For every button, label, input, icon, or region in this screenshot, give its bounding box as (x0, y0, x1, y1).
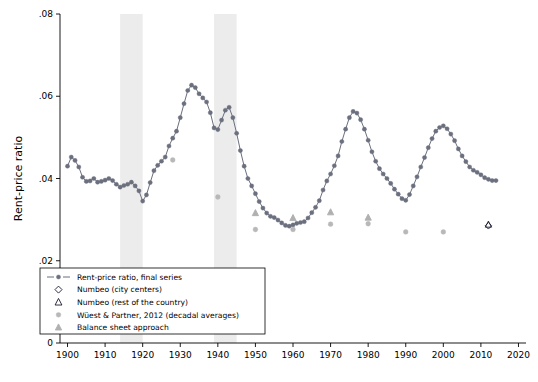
x-tick-label: 1990 (394, 350, 417, 360)
data-point-circle (452, 139, 456, 143)
data-point-circle (396, 192, 400, 196)
data-point-circle (246, 176, 250, 180)
data-point-circle (325, 179, 329, 183)
x-tick-label: 2010 (469, 350, 492, 360)
data-point-circle (403, 230, 408, 235)
data-point-circle (159, 159, 163, 163)
data-point-circle (377, 167, 381, 171)
data-point-circle (404, 198, 408, 202)
data-point-circle (385, 176, 389, 180)
data-point-circle (445, 127, 449, 131)
data-point-circle (144, 193, 148, 197)
data-point-circle (468, 165, 472, 169)
data-point-triangle (365, 214, 371, 220)
data-point-circle (167, 144, 171, 148)
data-point-circle (73, 158, 77, 162)
chart-container: 0.02.04.06.08190019101920193019401950196… (0, 0, 538, 382)
data-point-circle (430, 137, 434, 141)
data-point-circle (449, 132, 453, 136)
data-point-circle (479, 173, 483, 177)
data-point-circle (215, 195, 220, 200)
data-point-circle (223, 108, 227, 112)
data-point-circle (253, 192, 257, 196)
data-point-circle (208, 111, 212, 115)
data-point-circle (171, 136, 175, 140)
data-point-circle (77, 165, 81, 169)
rent-price-ratio-chart: 0.02.04.06.08190019101920193019401950196… (0, 0, 538, 382)
data-point-circle (295, 221, 299, 225)
data-point-circle (174, 129, 178, 133)
data-point-circle (328, 172, 332, 176)
data-point-circle (178, 116, 182, 120)
data-point-circle (257, 199, 261, 203)
data-point-circle (253, 227, 258, 232)
data-point-circle (434, 129, 438, 133)
chart-legend: Rent-price ratio, final seriesNumbeo (ci… (40, 268, 265, 334)
data-point-circle (238, 148, 242, 152)
data-point-circle (170, 158, 175, 163)
legend-label: Rent-price ratio, final series (77, 273, 182, 282)
data-point-triangle (290, 215, 296, 221)
data-point-circle (186, 88, 190, 92)
data-point-circle (471, 168, 475, 172)
data-point-circle (441, 124, 445, 128)
data-point-circle (392, 187, 396, 191)
data-point-circle (366, 138, 370, 142)
data-point-circle (84, 179, 88, 183)
data-point-circle (460, 154, 464, 158)
data-point-circle (298, 220, 302, 224)
data-point-circle (306, 216, 310, 220)
data-point-circle (122, 183, 126, 187)
data-point-circle (114, 182, 118, 186)
y-tick-label: 0 (47, 338, 53, 348)
data-point-circle (56, 275, 60, 279)
data-point-circle (332, 164, 336, 168)
data-point-circle (464, 160, 468, 164)
y-axis-label: Rent-price ratio (12, 136, 25, 222)
data-point-circle (69, 155, 73, 159)
data-point-circle (302, 220, 306, 224)
x-tick-label: 2000 (432, 350, 455, 360)
data-point-circle (126, 182, 130, 186)
x-tick-label: 1960 (282, 350, 305, 360)
data-point-circle (182, 102, 186, 106)
data-point-circle (374, 159, 378, 163)
data-point-circle (313, 205, 317, 209)
data-point-circle (494, 178, 498, 182)
data-point-circle (88, 179, 92, 183)
data-point-circle (419, 165, 423, 169)
data-point-circle (219, 118, 223, 122)
data-point-circle (152, 169, 156, 173)
data-point-circle (426, 146, 430, 150)
data-point-circle (204, 100, 208, 104)
data-point-circle (422, 155, 426, 159)
legend-label: Wüest & Partner, 2012 (decadal averages) (77, 311, 239, 320)
data-point-circle (366, 221, 371, 226)
data-point-circle (65, 164, 69, 168)
data-point-circle (317, 199, 321, 203)
data-point-circle (321, 188, 325, 192)
y-tick-label: .06 (39, 91, 54, 101)
data-point-circle (359, 118, 363, 122)
data-point-circle (156, 163, 160, 167)
data-point-circle (486, 177, 490, 181)
legend-label: Numbeo (rest of the country) (77, 298, 188, 307)
data-point-circle (280, 221, 284, 225)
data-point-circle (137, 189, 141, 193)
data-point-circle (197, 92, 201, 96)
data-point-triangle (327, 209, 333, 215)
series-3 (170, 158, 445, 235)
data-point-circle (347, 116, 351, 120)
y-tick-label: .02 (39, 256, 53, 266)
data-point-triangle (252, 210, 258, 216)
legend-item-3: Wüest & Partner, 2012 (decadal averages) (56, 311, 239, 320)
data-point-circle (80, 175, 84, 179)
data-point-circle (291, 227, 296, 232)
x-tick-label: 2020 (507, 350, 530, 360)
data-point-circle (310, 211, 314, 215)
data-point-circle (362, 127, 366, 131)
data-point-circle (370, 150, 374, 154)
data-point-circle (415, 175, 419, 179)
data-point-circle (163, 155, 167, 159)
data-point-circle (99, 179, 103, 183)
